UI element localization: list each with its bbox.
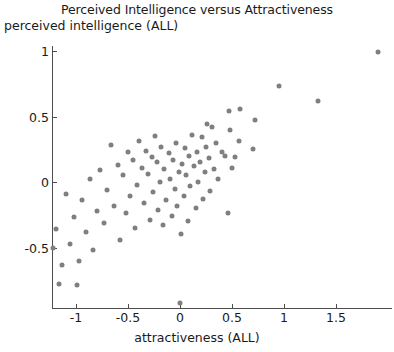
data-point: [143, 148, 148, 153]
data-point: [219, 149, 224, 154]
data-point: [204, 144, 209, 149]
data-point: [252, 118, 257, 123]
data-point: [250, 147, 255, 152]
data-point: [183, 145, 188, 150]
data-point: [94, 208, 99, 213]
data-point: [188, 183, 193, 188]
data-point: [200, 197, 205, 202]
data-point: [238, 106, 243, 111]
data-point: [156, 207, 161, 212]
data-point: [115, 162, 120, 167]
data-point: [123, 211, 128, 216]
data-point: [149, 155, 154, 160]
data-point: [164, 198, 169, 203]
data-point: [135, 182, 140, 187]
data-point: [233, 155, 238, 160]
data-point: [145, 172, 150, 177]
data-point: [137, 139, 142, 144]
data-point: [84, 229, 89, 234]
data-point: [182, 194, 187, 199]
data-point: [155, 160, 160, 165]
data-point: [191, 164, 196, 169]
data-point: [97, 168, 102, 173]
data-point: [222, 153, 227, 158]
data-point: [197, 160, 202, 165]
data-point: [150, 190, 155, 195]
data-point: [159, 144, 164, 149]
data-point: [153, 134, 158, 139]
data-point: [179, 232, 184, 237]
data-point: [170, 157, 175, 162]
data-point: [174, 203, 179, 208]
data-point: [71, 215, 76, 220]
data-point: [131, 157, 136, 162]
data-point: [316, 98, 321, 103]
data-point: [225, 211, 230, 216]
data-point: [178, 300, 183, 305]
data-point: [112, 203, 117, 208]
data-point: [139, 165, 144, 170]
data-point: [87, 177, 92, 182]
data-point: [226, 109, 231, 114]
data-point: [199, 135, 204, 140]
data-point: [187, 153, 192, 158]
scatter-plot-figure: Perceived Intelligence versus Attractive…: [0, 0, 394, 352]
data-point: [230, 165, 235, 170]
data-point: [162, 166, 167, 171]
data-point: [126, 149, 131, 154]
data-point: [208, 189, 213, 194]
data-point: [167, 177, 172, 182]
data-point: [117, 237, 122, 242]
data-point: [173, 140, 178, 145]
data-point: [161, 223, 166, 228]
data-point: [54, 227, 59, 232]
data-point: [172, 186, 177, 191]
data-point: [80, 198, 85, 203]
data-point: [128, 194, 133, 199]
data-point: [141, 200, 146, 205]
data-point: [227, 127, 232, 132]
data-point: [60, 262, 65, 267]
data-point: [205, 122, 210, 127]
data-point: [186, 219, 191, 224]
data-point: [375, 50, 380, 55]
data-point: [67, 241, 72, 246]
data-point: [195, 180, 200, 185]
data-point: [77, 258, 82, 263]
data-point: [207, 156, 212, 161]
data-point: [90, 248, 95, 253]
data-point: [109, 143, 114, 148]
data-point: [194, 149, 199, 154]
data-point: [105, 187, 110, 192]
data-point: [276, 84, 281, 89]
data-point: [75, 283, 80, 288]
data-point: [176, 169, 181, 174]
data-point: [166, 151, 171, 156]
data-point: [133, 225, 138, 230]
data-point: [51, 245, 56, 250]
data-point: [214, 140, 219, 145]
data-point: [216, 177, 221, 182]
data-point: [212, 166, 217, 171]
data-point: [184, 173, 189, 178]
data-point: [190, 132, 195, 137]
data-point: [63, 191, 68, 196]
data-point: [202, 169, 207, 174]
data-point: [147, 217, 152, 222]
data-point: [237, 139, 242, 144]
data-point: [57, 282, 62, 287]
data-point: [210, 124, 215, 129]
data-point: [193, 206, 198, 211]
data-point: [158, 180, 163, 185]
data-point: [102, 220, 107, 225]
data-points-layer: [0, 0, 394, 352]
data-point: [120, 173, 125, 178]
data-point: [180, 161, 185, 166]
data-point: [169, 214, 174, 219]
